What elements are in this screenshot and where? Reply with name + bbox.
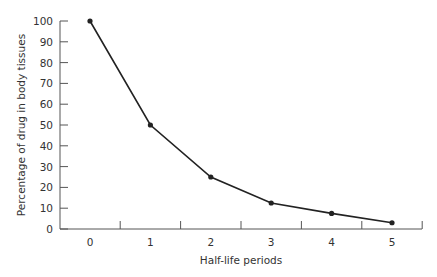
y-tick-label: 90 <box>40 36 53 48</box>
data-point <box>389 220 394 225</box>
y-tick-label: 40 <box>40 140 53 152</box>
x-tick-label: 4 <box>328 236 335 248</box>
y-tick-label: 20 <box>40 181 53 193</box>
y-tick-label: 10 <box>40 202 53 214</box>
data-series <box>87 18 394 225</box>
x-tick-label: 2 <box>207 236 214 248</box>
data-point <box>329 211 334 216</box>
data-point <box>148 122 153 127</box>
chart-container: 0102030405060708090100 012345 Half-life … <box>0 0 437 277</box>
y-tick-label: 0 <box>46 223 53 235</box>
data-point <box>208 174 213 179</box>
x-axis-label: Half-life periods <box>200 254 282 266</box>
x-tick-label: 1 <box>147 236 154 248</box>
x-tick-label: 3 <box>268 236 275 248</box>
x-axis: 012345 <box>60 221 422 248</box>
y-tick-label: 100 <box>33 15 53 27</box>
y-tick-label: 70 <box>40 77 53 89</box>
y-tick-label: 60 <box>40 98 53 110</box>
y-tick-label: 30 <box>40 161 53 173</box>
y-axis-label: Percentage of drug in body tissues <box>15 34 27 216</box>
y-tick-label: 80 <box>40 57 53 69</box>
data-point <box>87 18 92 23</box>
y-tick-label: 50 <box>40 119 53 131</box>
x-tick-label: 5 <box>389 236 396 248</box>
series-line <box>90 21 392 223</box>
x-tick-label: 0 <box>87 236 94 248</box>
data-point <box>269 200 274 205</box>
y-axis: 0102030405060708090100 <box>33 15 68 235</box>
